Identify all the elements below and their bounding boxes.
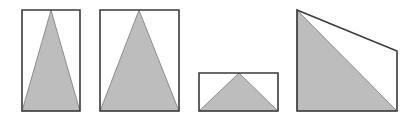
figure-rectangle-tall-narrow — [22, 10, 80, 111]
shapes-diagram — [0, 0, 415, 119]
shaded-triangle — [22, 10, 80, 111]
figure-rectangle-tall-wide — [100, 10, 179, 111]
figure-rectangle-short — [199, 73, 278, 111]
shaded-triangle — [100, 10, 179, 111]
shaded-triangle — [199, 73, 278, 111]
figure-trapezoid — [297, 10, 397, 111]
shaded-right-triangle — [297, 10, 397, 111]
